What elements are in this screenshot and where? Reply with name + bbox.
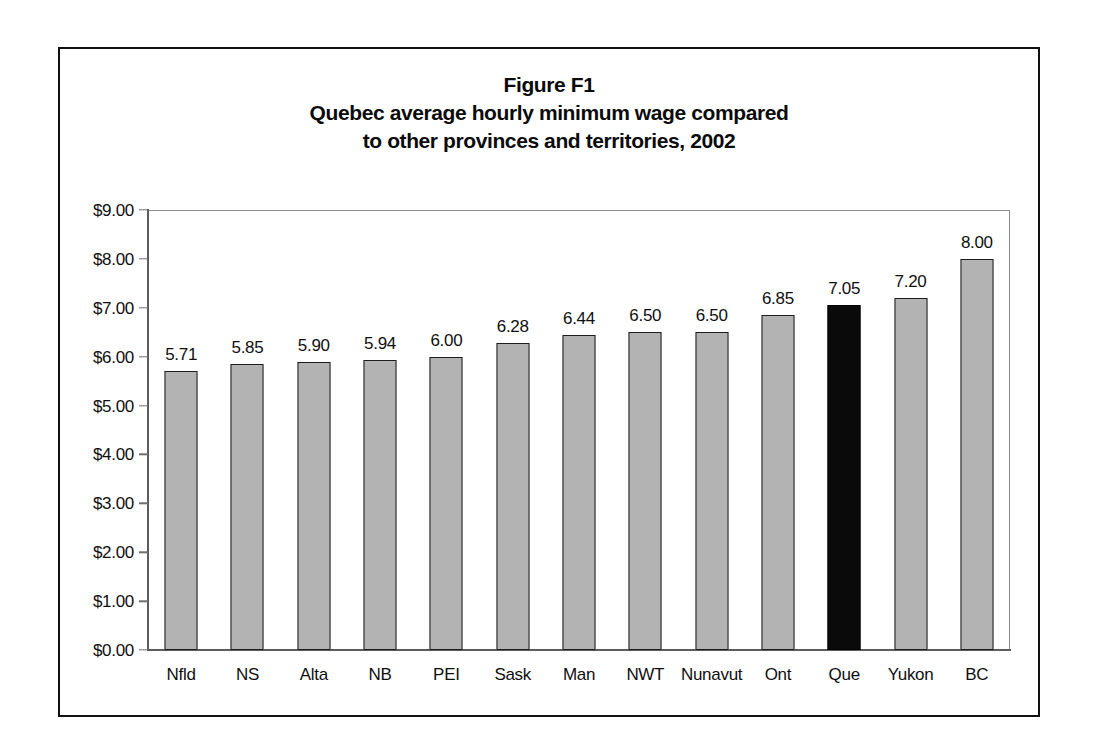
y-axis-tick [139,649,148,650]
y-axis-tick [139,503,148,504]
y-axis-label: $7.00 [93,299,134,316]
x-axis-label-ns: NS [236,666,259,683]
y-axis-tick [139,454,148,455]
bar-value-label: 6.50 [629,307,661,324]
y-axis-tick [139,405,148,406]
y-axis-label: $8.00 [93,250,134,267]
x-axis-label-pei: PEI [433,666,460,683]
x-axis-label-nunavut: Nunavut [681,666,742,683]
bar-slot: 7.05Que [811,210,877,650]
chart-title-line-1: Figure F1 [60,71,1038,99]
y-axis-label: $9.00 [93,202,134,219]
y-axis-tick [139,258,148,259]
bar-value-label: 7.05 [828,280,860,297]
y-axis-tick [139,356,148,357]
x-axis-label-nwt: NWT [626,666,664,683]
x-axis-label-nb: NB [369,666,392,683]
chart-title: Figure F1 Quebec average hourly minimum … [60,71,1038,155]
bar-slot: 5.85NS [214,210,280,650]
x-axis-label-bc: BC [965,666,988,683]
bar-slot: 6.00PEI [413,210,479,650]
bar-ont[interactable] [761,315,794,650]
bar-bc[interactable] [960,259,993,650]
bar-slot: 6.50NWT [612,210,678,650]
bar-value-label: 7.20 [895,273,927,290]
bar-nb[interactable] [364,360,397,650]
bar-nwt[interactable] [629,332,662,650]
y-axis-tick [139,209,148,210]
bar-value-label: 5.85 [231,339,263,356]
bar-alta[interactable] [297,362,330,650]
bar-value-label: 6.44 [563,310,595,327]
bar-value-label: 6.85 [762,290,794,307]
y-axis-tick [139,307,148,308]
x-axis-label-man: Man [563,666,595,683]
bar-value-label: 6.00 [430,332,462,349]
y-axis-label: $1.00 [93,593,134,610]
bar-slot: 6.50Nunavut [678,210,744,650]
bar-nfld[interactable] [165,371,198,650]
bar-slot: 5.94NB [347,210,413,650]
figure-frame: Figure F1 Quebec average hourly minimum … [58,47,1040,717]
chart-title-line-2: Quebec average hourly minimum wage compa… [60,99,1038,127]
bar-ns[interactable] [231,364,264,650]
bar-value-label: 5.71 [165,346,197,363]
bar-que[interactable] [828,305,861,650]
bar-man[interactable] [562,335,595,650]
bar-slot: 8.00BC [944,210,1010,650]
y-axis-label: $3.00 [93,495,134,512]
y-axis-tick [139,552,148,553]
bar-slot: 5.90Alta [281,210,347,650]
y-axis-label: $4.00 [93,446,134,463]
bar-value-label: 5.90 [298,337,330,354]
x-axis-label-ont: Ont [765,666,792,683]
bar-value-label: 6.50 [696,307,728,324]
bar-value-label: 5.94 [364,335,396,352]
chart-title-line-3: to other provinces and territories, 2002 [60,127,1038,155]
bar-slot: 6.28Sask [480,210,546,650]
y-axis-label: $2.00 [93,544,134,561]
y-axis-tick [139,600,148,601]
x-axis-label-nfld: Nfld [167,666,196,683]
y-axis-label: $6.00 [93,348,134,365]
bar-nunavut[interactable] [695,332,728,650]
y-axis-label: $5.00 [93,397,134,414]
bar-slot: 7.20Yukon [877,210,943,650]
y-axis-label: $0.00 [93,642,134,659]
x-axis-label-sask: Sask [494,666,531,683]
bar-sask[interactable] [496,343,529,650]
x-axis-label-alta: Alta [300,666,328,683]
x-axis-label-yukon: Yukon [888,666,934,683]
bar-slot: 6.85Ont [745,210,811,650]
bar-value-label: 8.00 [961,234,993,251]
bar-pei[interactable] [430,357,463,650]
bar-yukon[interactable] [894,298,927,650]
x-axis-label-que: Que [829,666,860,683]
bar-slot: 6.44Man [546,210,612,650]
plot-wrap: $0.00$1.00$2.00$3.00$4.00$5.00$6.00$7.00… [148,210,1010,650]
bar-slot: 5.71Nfld [148,210,214,650]
bar-value-label: 6.28 [497,318,529,335]
